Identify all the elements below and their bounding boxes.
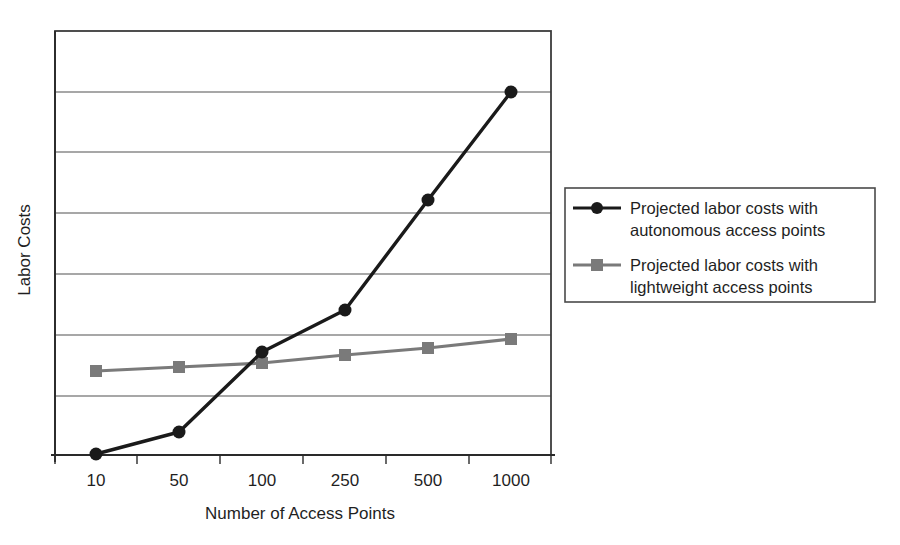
data-point-marker <box>422 194 435 207</box>
data-point-marker <box>422 342 434 354</box>
x-tick-label: 50 <box>170 471 189 490</box>
plot-background <box>55 31 551 455</box>
x-axis <box>51 455 555 464</box>
x-tick-label: 250 <box>331 471 359 490</box>
legend-label-line2: autonomous access points <box>630 221 825 239</box>
data-point-marker <box>339 304 352 317</box>
line-chart: 10 50 100 250 500 1000 Number of Access … <box>0 0 900 545</box>
data-point-marker <box>173 361 185 373</box>
data-point-marker <box>90 365 102 377</box>
x-tick-label: 100 <box>248 471 276 490</box>
data-point-marker <box>256 357 268 369</box>
chart-legend: Projected labor costs with autonomous ac… <box>565 188 875 302</box>
y-axis-title: Labor Costs <box>15 204 34 296</box>
x-tick-label: 1000 <box>492 471 530 490</box>
circle-marker-icon <box>591 202 603 214</box>
data-point-marker <box>256 346 269 359</box>
x-axis-title: Number of Access Points <box>205 504 395 523</box>
x-tick-label: 10 <box>87 471 106 490</box>
x-tick-labels: 10 50 100 250 500 1000 <box>87 471 530 490</box>
data-point-marker <box>339 349 351 361</box>
x-tick-label: 500 <box>414 471 442 490</box>
data-point-marker <box>173 426 186 439</box>
legend-label-line1: Projected labor costs with <box>630 256 818 274</box>
data-point-marker <box>505 86 518 99</box>
chart-container: 10 50 100 250 500 1000 Number of Access … <box>0 0 900 545</box>
data-point-marker <box>505 333 517 345</box>
square-marker-icon <box>591 259 603 271</box>
data-point-marker <box>90 448 103 461</box>
legend-label-line2: lightweight access points <box>630 278 813 296</box>
legend-label-line1: Projected labor costs with <box>630 199 818 217</box>
